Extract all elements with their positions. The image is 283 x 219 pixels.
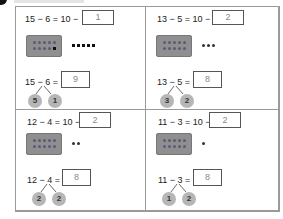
number-bond-left: 2: [32, 192, 46, 206]
problem-panel-4: 11 − 3 = 10 − 2 11 − 3 = 8 1 2: [145, 109, 275, 212]
number-bond-left: 1: [162, 192, 176, 206]
number-bond-left: 3: [160, 94, 174, 108]
number-bond-right: 2: [182, 192, 196, 206]
exercise-bullet-icon: [0, 0, 7, 5]
problem-panel-1: 15 − 6 = 10 − 1 15 − 6 = 9 5 1: [15, 6, 145, 109]
exercise-instructions: [14, 0, 84, 3]
problem-panel-3: 12 − 4 = 10 − 2 12 − 4 = 8 2 2: [15, 109, 145, 212]
number-bond-right: 2: [52, 192, 66, 206]
number-bond-right: 2: [180, 94, 194, 108]
number-bond-left: 5: [28, 94, 42, 108]
problem-panel-2: 13 − 5 = 10 − 2 13 − 5 = 8 3 2: [145, 6, 275, 109]
number-bond-right: 1: [48, 94, 62, 108]
